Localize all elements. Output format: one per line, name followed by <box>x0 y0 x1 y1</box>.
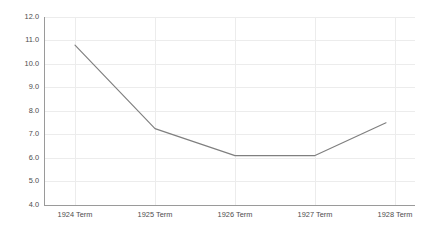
x-tick-label: 1927 Term <box>298 210 333 219</box>
y-axis-tick-labels: 12.0 11.0 10.0 9.0 8.0 7.0 6.0 5.0 4.0 <box>25 12 39 209</box>
y-tick-label: 10.0 <box>25 59 39 68</box>
x-tick-label: 1926 Term <box>218 210 253 219</box>
x-tick-label: 1925 Term <box>138 210 173 219</box>
x-tick-label: 1924 Term <box>58 210 93 219</box>
line-chart: 12.0 11.0 10.0 9.0 8.0 7.0 6.0 5.0 4.0 1… <box>0 0 434 229</box>
y-tick-label: 4.0 <box>29 200 39 209</box>
y-tick-label: 9.0 <box>29 82 39 91</box>
y-tick-label: 8.0 <box>29 106 39 115</box>
y-tick-label: 12.0 <box>25 12 39 21</box>
y-tick-label: 6.0 <box>29 153 39 162</box>
x-tick-label: 1928 Term <box>378 210 413 219</box>
y-tick-label: 5.0 <box>29 176 39 185</box>
x-axis-tick-labels: 1924 Term 1925 Term 1926 Term 1927 Term … <box>58 210 413 219</box>
chart-canvas: 12.0 11.0 10.0 9.0 8.0 7.0 6.0 5.0 4.0 1… <box>0 0 434 229</box>
y-tick-label: 11.0 <box>25 35 39 44</box>
y-tick-label: 7.0 <box>29 129 39 138</box>
